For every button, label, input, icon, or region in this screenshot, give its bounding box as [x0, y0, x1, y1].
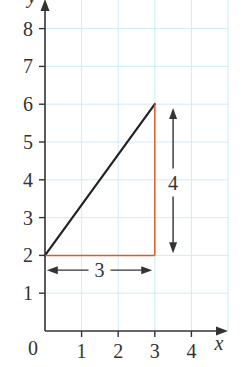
arrow-right-icon — [141, 266, 152, 274]
x-tick-label: 3 — [150, 340, 160, 362]
annotations: 34 — [45, 104, 178, 281]
y-tick-label: 4 — [23, 169, 33, 191]
x-axis-label: x — [214, 332, 224, 354]
arrow-down-icon — [169, 242, 177, 253]
y-tick-label: 6 — [23, 93, 33, 115]
coordinate-grid-chart: 34 1234123456780xy — [0, 0, 245, 367]
y-tick-label: 2 — [23, 244, 33, 266]
y-tick-label: 8 — [23, 18, 33, 40]
grid-lines — [45, 0, 228, 331]
arrow-up-icon — [169, 108, 177, 119]
x-tick-label: 4 — [186, 340, 196, 362]
axes — [39, 0, 228, 337]
rise-arrow-label: 4 — [168, 172, 178, 194]
y-tick-label: 5 — [23, 131, 33, 153]
y-axis-label: y — [26, 0, 37, 8]
x-tick-label: 2 — [113, 340, 123, 362]
y-tick-label: 7 — [23, 55, 33, 77]
run-arrow-label: 3 — [95, 259, 105, 281]
y-axis-arrow-icon — [41, 0, 50, 11]
x-tick-label: 1 — [77, 340, 87, 362]
y-tick-label: 3 — [23, 207, 33, 229]
tick-labels: 1234123456780xy — [23, 0, 224, 362]
arrow-left-icon — [47, 266, 58, 274]
y-tick-label: 1 — [23, 282, 33, 304]
origin-label: 0 — [28, 337, 38, 359]
